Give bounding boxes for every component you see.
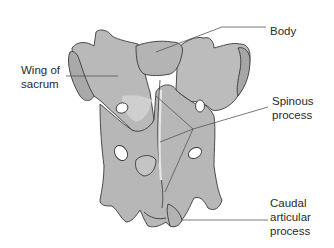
label-body-text: Body <box>270 24 296 38</box>
label-caudal-articular-process: Caudal articular process <box>270 196 311 238</box>
label-wing-line1: Wing of <box>21 63 60 77</box>
label-body: Body <box>270 24 296 38</box>
label-wing-line2: sacrum <box>21 77 60 91</box>
label-wing-of-sacrum: Wing of sacrum <box>21 63 60 91</box>
label-caudal-line1: Caudal <box>270 196 311 210</box>
label-spinous-line2: process <box>272 108 314 122</box>
label-spinous-line1: Spinous <box>272 94 314 108</box>
label-spinous-process: Spinous process <box>272 94 314 122</box>
sacrum-bone <box>68 30 250 227</box>
label-caudal-line3: process <box>270 224 311 238</box>
label-caudal-line2: articular <box>270 210 311 224</box>
